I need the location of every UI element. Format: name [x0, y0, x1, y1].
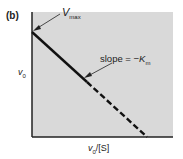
plot-area — [32, 12, 173, 137]
slope-subscript: m — [145, 60, 150, 66]
slope-annotation: slope = −Km — [100, 53, 150, 66]
y-label-subscript: 0 — [23, 73, 26, 79]
chart-canvas — [0, 0, 183, 159]
x-label-suffix: /[S] — [96, 143, 110, 153]
vmax-annotation: Vmax — [62, 6, 81, 20]
x-axis-label: v0/[S] — [88, 143, 109, 155]
y-axis-label: v0 — [18, 67, 26, 79]
panel-label: (b) — [6, 10, 19, 21]
vmax-subscript: max — [69, 14, 80, 20]
slope-prefix: slope = − — [100, 53, 139, 64]
